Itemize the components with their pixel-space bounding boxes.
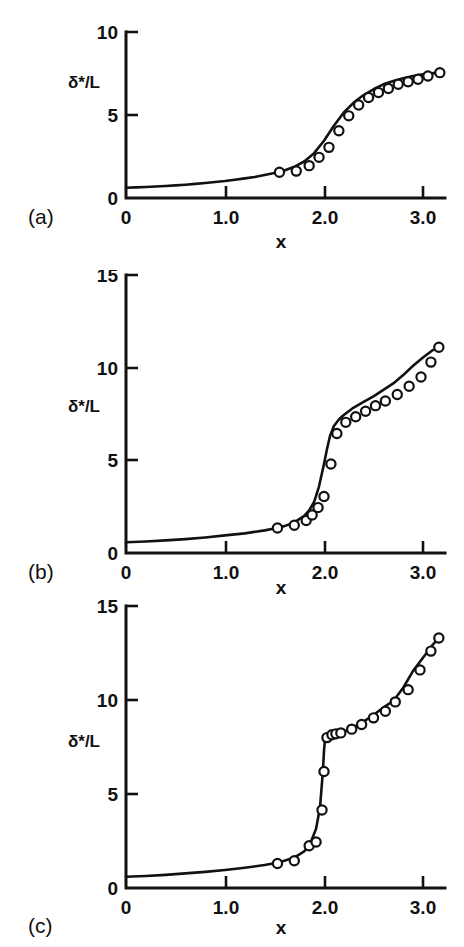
data-point-marker [391, 697, 400, 706]
xlabel-c-1: 1.0 [213, 897, 239, 918]
curve-b [126, 347, 439, 542]
panel-c: 15 10 5 0 0 1.0 2.0 3.0 δ*/L x (c) [0, 595, 464, 947]
curve-c [126, 638, 439, 877]
markers-a [275, 68, 445, 177]
data-point-marker [393, 390, 402, 399]
data-point-marker [275, 168, 284, 177]
ylabel-c-10: 10 [97, 690, 118, 711]
panel-b: 15 10 5 0 0 1.0 2.0 3.0 δ*/L x (b) [0, 270, 464, 595]
xlabel-a-0: 0 [121, 207, 132, 228]
data-point-marker [305, 161, 314, 170]
data-point-marker [351, 412, 360, 421]
xlabel-c-3: 3.0 [410, 897, 436, 918]
xlabel-b-0: 0 [121, 562, 132, 583]
axis-lines-a [126, 32, 445, 198]
data-point-marker [364, 93, 373, 102]
panel-label-a: (a) [28, 205, 54, 228]
data-point-marker [336, 728, 345, 737]
xlabel-b-3: 3.0 [410, 562, 436, 583]
panel-b-axes [126, 275, 445, 553]
xlabel-a-2: 2.0 [312, 207, 338, 228]
ylabel-c-0: 0 [107, 878, 118, 899]
ylabel-b-0: 0 [107, 543, 118, 564]
data-point-marker [273, 859, 282, 868]
data-point-marker [404, 685, 413, 694]
xlabel-b-2: 2.0 [312, 562, 338, 583]
data-point-marker [326, 459, 335, 468]
axis-lines-b [126, 275, 445, 553]
ylabel-b-5: 5 [107, 450, 118, 471]
data-point-marker [381, 707, 390, 716]
data-point-marker [381, 396, 390, 405]
panel-a-axes [126, 32, 445, 198]
panel-b-tick-labels: 15 10 5 0 0 1.0 2.0 3.0 [97, 270, 436, 583]
data-point-marker [317, 805, 326, 814]
xlabel-c-2: 2.0 [312, 897, 338, 918]
data-point-marker [347, 725, 356, 734]
panel-label-c: (c) [28, 914, 53, 937]
ylabel-b-10: 10 [97, 358, 118, 379]
ylabel-a-0: 0 [107, 188, 118, 209]
y-axis-title-b: δ*/L [68, 397, 100, 416]
data-point-marker [404, 77, 413, 86]
data-point-marker [313, 503, 322, 512]
data-point-marker [357, 720, 366, 729]
xlabel-c-0: 0 [121, 897, 132, 918]
data-point-marker [374, 88, 383, 97]
y-axis-title-a: δ*/L [68, 73, 100, 92]
data-point-marker [434, 633, 443, 642]
data-point-marker [423, 71, 432, 80]
y-axis-title-c: δ*/L [68, 732, 100, 751]
data-point-marker [334, 126, 343, 135]
ylabel-a-5: 5 [107, 105, 118, 126]
data-point-marker [354, 100, 363, 109]
panel-c-svg: 15 10 5 0 0 1.0 2.0 3.0 δ*/L x (c) [0, 595, 464, 947]
panel-c-axes [126, 606, 445, 888]
ylabel-b-15: 15 [97, 270, 119, 286]
figure-three-panel-plot: 10 5 0 0 1.0 2.0 3.0 δ*/L x (a) [0, 0, 464, 947]
data-point-marker [324, 143, 333, 152]
xlabel-b-1: 1.0 [213, 562, 239, 583]
data-point-marker [426, 647, 435, 656]
data-point-marker [384, 84, 393, 93]
data-point-marker [394, 80, 403, 89]
data-point-marker [273, 523, 282, 532]
data-point-marker [344, 111, 353, 120]
ylabel-a-10: 10 [97, 22, 118, 43]
data-point-marker [435, 68, 444, 77]
data-point-marker [405, 382, 414, 391]
markers-b [273, 343, 444, 533]
data-point-marker [311, 837, 320, 846]
markers-c [273, 633, 444, 868]
data-point-marker [319, 492, 328, 501]
xlabel-a-3: 3.0 [410, 207, 436, 228]
data-point-marker [416, 372, 425, 381]
data-point-marker [434, 343, 443, 352]
x-axis-title-a: x [276, 231, 287, 252]
data-point-marker [413, 75, 422, 84]
data-point-marker [319, 767, 328, 776]
panel-a-svg: 10 5 0 0 1.0 2.0 3.0 δ*/L x (a) [0, 0, 464, 270]
data-point-marker [371, 401, 380, 410]
data-point-marker [415, 665, 424, 674]
data-point-marker [361, 407, 370, 416]
xlabel-a-1: 1.0 [213, 207, 239, 228]
panel-label-b: (b) [28, 560, 54, 583]
x-axis-title-b: x [276, 577, 287, 595]
data-point-marker [332, 429, 341, 438]
data-point-marker [290, 856, 299, 865]
data-point-marker [292, 167, 301, 176]
x-axis-title-c: x [276, 917, 287, 938]
data-point-marker [314, 153, 323, 162]
ylabel-c-5: 5 [107, 784, 118, 805]
panel-b-svg: 15 10 5 0 0 1.0 2.0 3.0 δ*/L x (b) [0, 270, 464, 595]
data-point-marker [426, 358, 435, 367]
panel-a: 10 5 0 0 1.0 2.0 3.0 δ*/L x (a) [0, 0, 464, 270]
panel-c-tick-labels: 15 10 5 0 0 1.0 2.0 3.0 [97, 596, 436, 918]
data-point-marker [290, 521, 299, 530]
data-point-marker [369, 713, 378, 722]
data-point-marker [341, 418, 350, 427]
ylabel-c-15: 15 [97, 596, 119, 617]
axis-lines-c [126, 606, 445, 888]
